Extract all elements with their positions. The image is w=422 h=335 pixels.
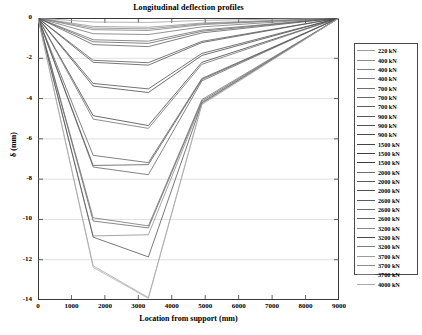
legend-item[interactable]: 2600 kN (355, 205, 417, 214)
y-tick-label: -10 (2, 214, 32, 222)
legend-line-swatch (357, 134, 375, 135)
legend-item[interactable]: 700 kN (355, 83, 417, 92)
legend-item-label: 700 kN (378, 93, 397, 102)
legend-item-label: 2600 kN (378, 205, 400, 214)
legend-line-swatch (357, 69, 375, 70)
legend-item[interactable]: 2600 kN (355, 196, 417, 205)
x-axis-label: Location from support (mm) (38, 314, 339, 323)
legend-item-label: 400 kN (378, 56, 397, 65)
series-line (38, 18, 339, 298)
legend-item-label: 3700 kN (378, 261, 400, 270)
chart-area: Longitudinal deflection profiles 0100020… (0, 0, 352, 335)
legend-item-label: 400 kN (378, 74, 397, 83)
legend-line-swatch (357, 190, 375, 191)
legend-line-swatch (357, 106, 375, 107)
legend-line-swatch (357, 181, 375, 182)
y-tick-label: -4 (2, 94, 32, 102)
gridlines (38, 58, 339, 259)
legend-line-swatch (357, 200, 375, 201)
y-tick-label: -12 (2, 255, 32, 263)
y-tick-label: -2 (2, 53, 32, 61)
legend-item[interactable]: 220 kN (355, 46, 417, 55)
chart-root: Longitudinal deflection profiles 0100020… (0, 0, 422, 335)
legend-line-swatch (357, 60, 375, 61)
legend-item-label: 2600 kN (378, 196, 400, 205)
legend-item[interactable]: 2000 kN (355, 167, 417, 176)
legend-item-label: 3200 kN (378, 233, 400, 242)
legend-item-label: 2600 kN (378, 214, 400, 223)
chart-title: Longitudinal deflection profiles (38, 3, 339, 12)
series-line (38, 18, 339, 298)
legend-line-swatch (357, 144, 375, 145)
y-tick-label: 0 (2, 13, 32, 21)
legend-item[interactable]: 1500 kN (355, 158, 417, 167)
legend-item-label: 3700 kN (378, 252, 400, 261)
legend-item[interactable]: 2000 kN (355, 186, 417, 195)
legend-item[interactable]: 3700 kN (355, 261, 417, 270)
legend-item[interactable]: 3700 kN (355, 252, 417, 261)
legend-line-swatch (357, 237, 375, 238)
legend-item-label: 900 kN (378, 130, 397, 139)
legend-line-swatch (357, 218, 375, 219)
axis-ticks (38, 18, 339, 300)
legend-item[interactable]: 2000 kN (355, 177, 417, 186)
legend-line-swatch (357, 88, 375, 89)
legend-item[interactable]: 1500 kN (355, 149, 417, 158)
legend-line-swatch (357, 153, 375, 154)
legend-line-swatch (357, 116, 375, 117)
legend-item-label: 4000 kN (378, 280, 400, 289)
legend-item-label: 3200 kN (378, 224, 400, 233)
legend-item[interactable]: 900 kN (355, 111, 417, 120)
legend-item[interactable]: 400 kN (355, 65, 417, 74)
legend-item[interactable]: 2600 kN (355, 214, 417, 223)
legend-item-label: 2000 kN (378, 177, 400, 186)
legend-line-swatch (357, 246, 375, 247)
legend-line-swatch (357, 50, 375, 51)
legend-line-swatch (357, 78, 375, 79)
legend-item[interactable]: 3700 kN (355, 270, 417, 279)
legend-items: 220 kN400 kN400 kN400 kN700 kN700 kN700 … (355, 46, 417, 272)
legend-item-label: 700 kN (378, 84, 397, 93)
legend-item-label: 700 kN (378, 102, 397, 111)
y-tick-label: -14 (2, 295, 32, 303)
legend-item[interactable]: 3200 kN (355, 224, 417, 233)
legend-line-swatch (357, 274, 375, 275)
legend-line-swatch (357, 125, 375, 126)
legend-item-label: 3200 kN (378, 242, 400, 251)
legend-line-swatch (357, 209, 375, 210)
legend-item[interactable]: 700 kN (355, 102, 417, 111)
legend-line-swatch (357, 256, 375, 257)
legend-item[interactable]: 3200 kN (355, 233, 417, 242)
legend-item-label: 2000 kN (378, 186, 400, 195)
y-axis-label: δ (mm) (9, 110, 18, 180)
legend-item[interactable]: 3200 kN (355, 242, 417, 251)
legend-line-swatch (357, 172, 375, 173)
legend-item-label: 2000 kN (378, 168, 400, 177)
legend-line-swatch (357, 228, 375, 229)
legend-item-label: 3700 kN (378, 270, 400, 279)
legend-line-swatch (357, 162, 375, 163)
series-line (38, 18, 339, 93)
legend: 220 kN400 kN400 kN400 kN700 kN700 kN700 … (354, 43, 418, 275)
legend-item[interactable]: 4000 kN (355, 280, 417, 289)
series-line (38, 18, 339, 226)
legend-item[interactable]: 400 kN (355, 74, 417, 83)
legend-item[interactable]: 900 kN (355, 121, 417, 130)
legend-item[interactable]: 900 kN (355, 130, 417, 139)
legend-item-label: 1500 kN (378, 140, 400, 149)
legend-line-swatch (357, 265, 375, 266)
x-tick-label: 9000 (319, 302, 359, 310)
legend-item-label: 900 kN (378, 112, 397, 121)
legend-item[interactable]: 700 kN (355, 93, 417, 102)
legend-item-label: 900 kN (378, 121, 397, 130)
legend-item[interactable]: 1500 kN (355, 139, 417, 148)
legend-line-swatch (357, 97, 375, 98)
legend-item[interactable]: 400 kN (355, 55, 417, 64)
legend-item-label: 1500 kN (378, 158, 400, 167)
series-line (38, 18, 339, 236)
legend-item-label: 220 kN (378, 46, 397, 55)
plot-canvas (38, 18, 339, 300)
legend-item-label: 1500 kN (378, 149, 400, 158)
legend-line-swatch (357, 284, 375, 285)
legend-item-label: 400 kN (378, 65, 397, 74)
